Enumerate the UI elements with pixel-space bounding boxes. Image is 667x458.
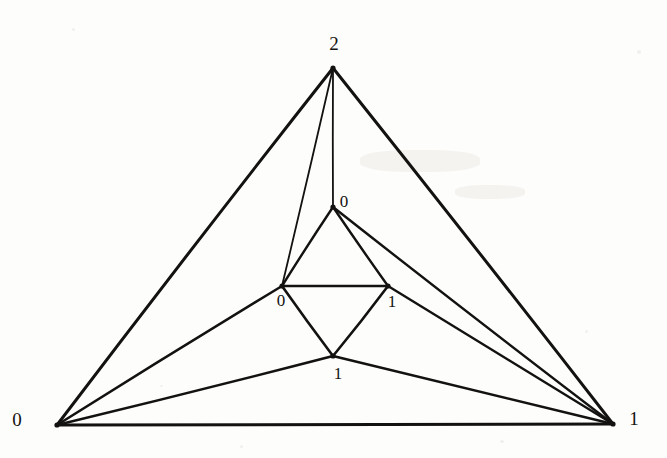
vertex-inner-right	[385, 283, 390, 288]
vertex-inner-left	[279, 283, 284, 288]
vertex-bottom-right	[610, 421, 615, 426]
graph-svg	[0, 0, 667, 458]
label-inner-left-0: 0	[277, 292, 286, 309]
label-inner-top-0: 0	[340, 193, 349, 210]
label-bottom-right-1: 1	[629, 409, 639, 428]
edge-inner-left-to-bottom-left	[57, 286, 282, 425]
edge-inner-left-to-inner-bottom	[282, 286, 333, 356]
vertex-inner-bottom	[330, 353, 335, 358]
label-inner-bottom-1: 1	[334, 365, 343, 382]
vertex-apex	[330, 65, 335, 70]
edge-inner-top-to-inner-right	[333, 207, 388, 286]
vertex-inner-top	[330, 204, 335, 209]
figure-canvas: 2 0 0 1 1 0 1	[0, 0, 667, 458]
vertex-bottom-left	[54, 422, 59, 427]
edge-inner-right-to-bottom-right	[388, 286, 613, 424]
edge-apex-to-bottom-right	[333, 68, 613, 424]
label-inner-right-1: 1	[388, 293, 397, 310]
edge-inner-top-to-bottom-right	[333, 207, 613, 424]
edge-inner-right-to-inner-bottom	[333, 286, 388, 356]
edge-bottom-left-to-bottom-right	[57, 424, 613, 425]
label-bottom-left-0: 0	[12, 410, 22, 429]
edge-inner-top-to-inner-left	[282, 207, 333, 286]
edge-inner-bottom-to-bottom-right	[333, 356, 613, 424]
label-apex-2: 2	[329, 34, 339, 53]
edge-inner-bottom-to-bottom-left	[57, 356, 333, 425]
